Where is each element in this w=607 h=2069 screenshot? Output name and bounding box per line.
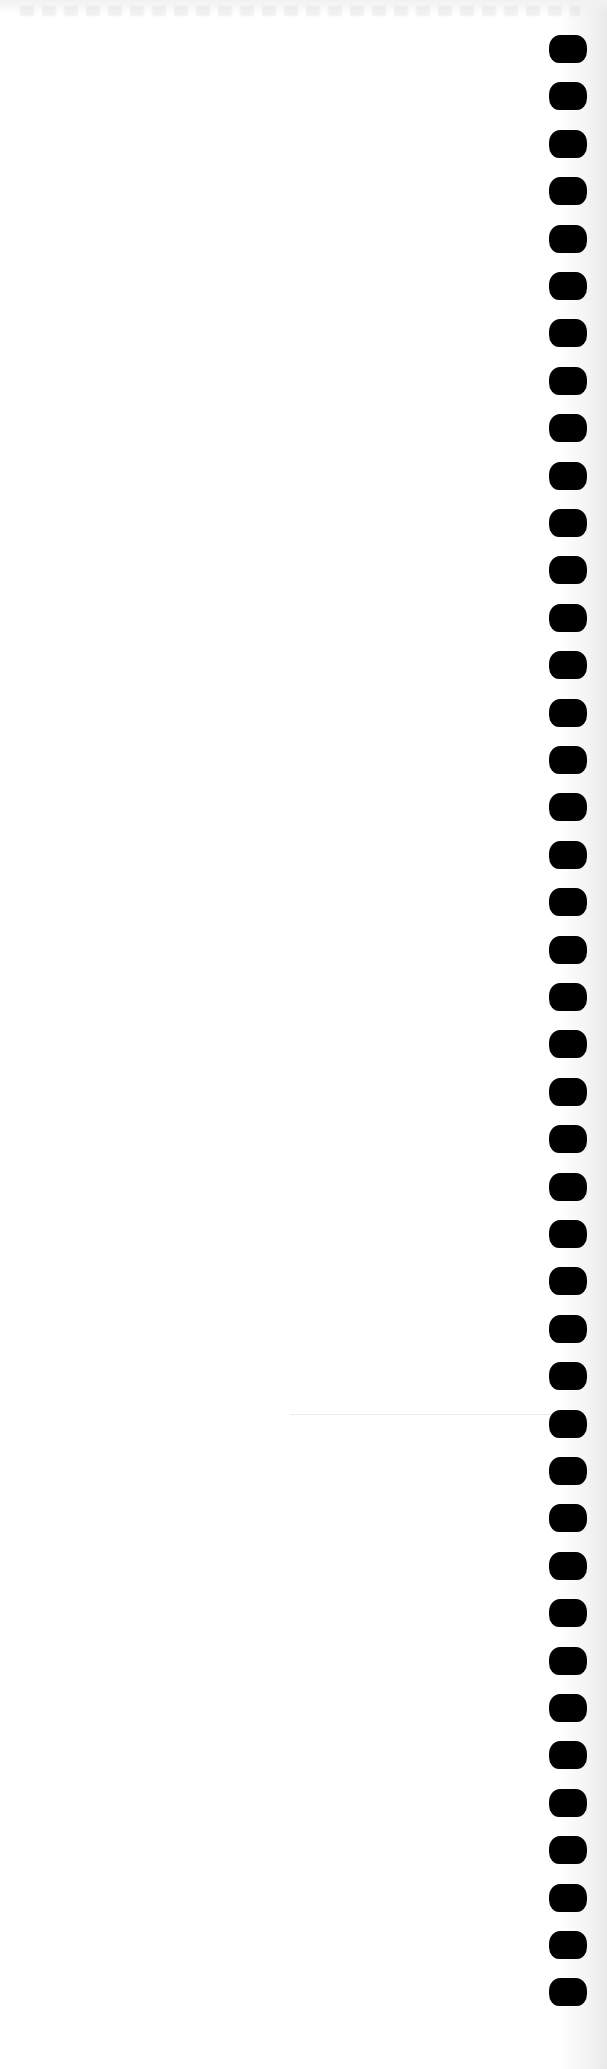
binding-hole xyxy=(549,462,587,490)
binding-hole xyxy=(549,1931,587,1959)
binding-hole xyxy=(549,1647,587,1675)
binding-hole xyxy=(549,604,587,632)
binding-hole xyxy=(549,82,587,110)
binding-hole xyxy=(549,1884,587,1912)
binding-hole xyxy=(549,177,587,205)
binding-hole xyxy=(549,1599,587,1627)
binding-hole xyxy=(549,746,587,774)
binding-hole xyxy=(549,1078,587,1106)
binding-hole xyxy=(549,556,587,584)
binding-hole xyxy=(549,35,587,63)
binding-hole xyxy=(549,1552,587,1580)
binding-hole xyxy=(549,793,587,821)
binding-hole xyxy=(549,272,587,300)
binding-hole xyxy=(549,225,587,253)
binding-hole xyxy=(549,1362,587,1390)
binding-hole xyxy=(549,1030,587,1058)
binding-hole xyxy=(549,1978,587,2006)
binding-hole xyxy=(549,1410,587,1438)
binding-hole xyxy=(549,319,587,347)
binding-hole xyxy=(549,699,587,727)
binding-hole xyxy=(549,1789,587,1817)
binding-hole xyxy=(549,1741,587,1769)
binding-hole xyxy=(549,841,587,869)
binding-hole xyxy=(549,1836,587,1864)
binding-hole xyxy=(549,130,587,158)
binding-hole xyxy=(549,414,587,442)
binding-hole xyxy=(549,983,587,1011)
binding-hole xyxy=(549,1125,587,1153)
binding-hole xyxy=(549,1267,587,1295)
faint-rule-line xyxy=(290,1414,560,1415)
binding-hole xyxy=(549,1315,587,1343)
binding-hole xyxy=(549,651,587,679)
binding-hole xyxy=(549,888,587,916)
binding-hole xyxy=(549,1173,587,1201)
binding-hole xyxy=(549,509,587,537)
notebook-page xyxy=(0,0,607,2069)
binding-hole xyxy=(549,367,587,395)
binding-hole xyxy=(549,1457,587,1485)
binding-hole xyxy=(549,936,587,964)
binding-hole xyxy=(549,1504,587,1532)
binding-hole xyxy=(549,1694,587,1722)
binding-hole xyxy=(549,1220,587,1248)
bleed-through-text xyxy=(20,6,580,16)
